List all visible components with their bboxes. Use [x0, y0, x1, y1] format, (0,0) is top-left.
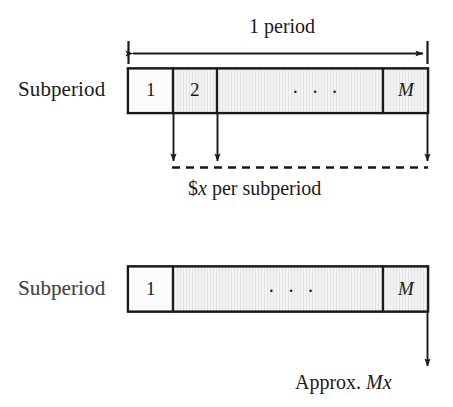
top-flow-caption: $x per subperiod — [188, 178, 321, 198]
period-dimension-label: 1 period — [249, 16, 315, 36]
top-flow-caption-variable: x — [198, 177, 207, 199]
top-cashflow-arrows — [174, 114, 428, 161]
top-flow-caption-prefix: $ — [188, 177, 198, 199]
top-cell-label-1: 1 — [146, 80, 156, 99]
bottom-cell-ellipsis: · · · — [268, 280, 318, 303]
top-cell-ellipsis: · · · — [292, 81, 342, 104]
top-row-label: Subperiod — [18, 79, 105, 100]
bottom-row-label: Subperiod — [18, 278, 105, 299]
top-cell-label-2: 2 — [190, 80, 200, 99]
figure-root: 1 period Subperiod 1 2 · · · M $x per su… — [0, 0, 453, 407]
bottom-cell-label-1: 1 — [146, 279, 156, 298]
figure-line-art — [0, 0, 453, 407]
bottom-cell-label-m: M — [398, 279, 414, 298]
top-cell-label-m: M — [398, 80, 414, 99]
bottom-flow-caption-prefix: Approx. — [295, 371, 366, 393]
bottom-flow-caption: Approx. Mx — [295, 372, 392, 392]
top-flow-caption-suffix: per subperiod — [207, 177, 321, 199]
bottom-flow-caption-variable: Mx — [366, 371, 392, 393]
top-bar — [128, 69, 428, 114]
